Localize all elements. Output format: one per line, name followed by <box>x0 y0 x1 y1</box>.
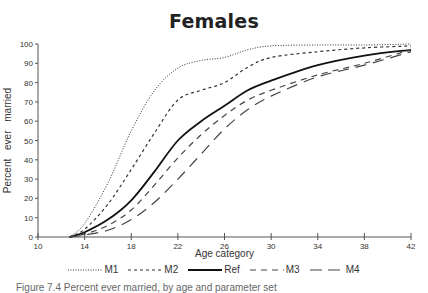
series-line-m1 <box>70 44 412 237</box>
legend-item-m4: M4 <box>310 264 360 275</box>
axes: 0102030405060708090100101418222630343842… <box>2 40 416 259</box>
series-lines <box>70 44 412 237</box>
x-tick-label: 42 <box>407 242 416 251</box>
x-tick-label: 30 <box>267 242 276 251</box>
y-tick-label: 60 <box>24 117 33 126</box>
series-line-ref <box>70 50 412 237</box>
y-tick-label: 40 <box>24 156 33 165</box>
x-tick-label: 22 <box>173 242 182 251</box>
legend-item-m1: M1 <box>68 264 118 275</box>
x-tick-label: 38 <box>360 242 369 251</box>
solid-line-swatch-icon <box>188 267 222 273</box>
legend-label-ref: Ref <box>224 264 240 275</box>
legend-item-ref: Ref <box>188 264 240 275</box>
short-dash-line-swatch-icon <box>128 267 162 273</box>
legend-label-m2: M2 <box>164 264 178 275</box>
x-tick-label: 34 <box>313 242 322 251</box>
x-axis-label: Age category <box>195 248 254 259</box>
y-tick-label: 0 <box>29 233 34 242</box>
figure-caption: Figure 7.4 Percent ever married, by age … <box>16 282 277 293</box>
medium-dash-line-swatch-icon <box>250 267 284 273</box>
x-tick-label: 14 <box>80 242 89 251</box>
x-tick-label: 10 <box>34 242 43 251</box>
line-chart: 0102030405060708090100101418222630343842… <box>0 0 428 262</box>
legend-item-m2: M2 <box>128 264 178 275</box>
legend-label-m3: M3 <box>286 264 300 275</box>
y-tick-label: 70 <box>24 98 33 107</box>
dotted-line-swatch-icon <box>68 267 102 273</box>
y-tick-label: 100 <box>20 40 34 49</box>
y-tick-label: 50 <box>24 137 33 146</box>
legend-label-m1: M1 <box>104 264 118 275</box>
y-tick-label: 10 <box>24 214 33 223</box>
series-line-m2 <box>70 46 412 237</box>
y-tick-label: 90 <box>24 59 33 68</box>
x-tick-label: 18 <box>127 242 136 251</box>
y-tick-label: 20 <box>24 194 33 203</box>
legend: M1 M2 Ref M3 M4 <box>0 264 428 275</box>
y-tick-label: 80 <box>24 79 33 88</box>
legend-label-m4: M4 <box>346 264 360 275</box>
long-dash-line-swatch-icon <box>310 267 344 273</box>
y-axis-label: Percent ever married <box>2 88 13 193</box>
legend-item-m3: M3 <box>250 264 300 275</box>
y-tick-label: 30 <box>24 175 33 184</box>
